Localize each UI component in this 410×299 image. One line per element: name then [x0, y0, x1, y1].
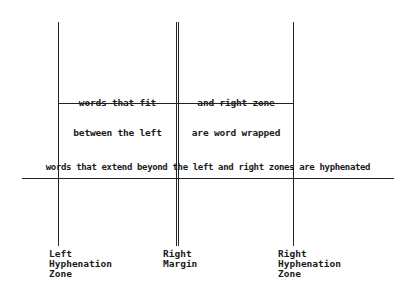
- right-margin-line-a: [176, 22, 177, 246]
- label-line: Zone: [49, 269, 112, 279]
- left-hyphenation-zone-label: Left Hyphenation Zone: [49, 249, 112, 279]
- hyphenation-baseline: [22, 178, 394, 179]
- right-margin-label: Right Margin: [163, 249, 197, 269]
- right-zone-text-line-2: are word wrapped: [179, 128, 293, 138]
- right-zone-text: and right zone are word wrapped: [179, 78, 293, 148]
- hyphenation-text: words that extend beyond the left and ri…: [22, 162, 394, 172]
- right-hyphenation-zone-line: [293, 22, 294, 246]
- right-hyphenation-zone-label: Right Hyphenation Zone: [278, 249, 341, 279]
- left-zone-text-line-1: words that fit: [59, 98, 176, 108]
- label-line: Margin: [163, 259, 197, 269]
- right-zone-text-line-1: and right zone: [179, 98, 293, 108]
- left-zone-text-line-2: between the left: [59, 128, 176, 138]
- label-line: Zone: [278, 269, 341, 279]
- left-zone-text: words that fit between the left: [59, 78, 176, 148]
